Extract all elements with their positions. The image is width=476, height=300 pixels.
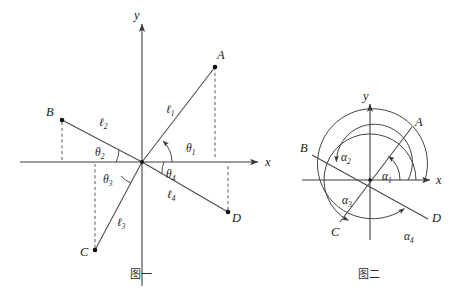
geometry-diagram: x y A B C D ℓ1 ℓ2 ℓ3 ℓ4 θ1 θ2 bbox=[0, 0, 476, 300]
right-y-axis-label: y bbox=[361, 89, 369, 103]
right-point-D-label: D bbox=[431, 211, 441, 225]
right-x-axis-label: x bbox=[435, 173, 442, 187]
left-point-A-dot bbox=[213, 65, 218, 70]
right-alpha2-label: α2 bbox=[341, 151, 351, 166]
left-point-C-label: C bbox=[80, 245, 89, 259]
left-point-C-dot bbox=[93, 248, 98, 253]
right-alpha1-label: α1 bbox=[382, 170, 392, 185]
left-point-B-label: B bbox=[46, 105, 54, 119]
right-alpha3-label: α3 bbox=[342, 194, 352, 209]
figure-one-group: x y A B C D ℓ1 ℓ2 ℓ3 ℓ4 θ1 θ2 bbox=[20, 8, 271, 286]
left-segment-l1-label: ℓ1 bbox=[166, 103, 175, 118]
right-origin-dot bbox=[368, 178, 372, 182]
left-point-A-label: A bbox=[216, 48, 225, 62]
figure-two-caption: 图二 bbox=[358, 268, 380, 281]
figure-two-group: x y A B C D α1 α2 α3 α4 图二 bbox=[300, 89, 442, 281]
left-angle-theta1-arc bbox=[163, 141, 172, 162]
figure-one-caption: 图一 bbox=[130, 268, 152, 281]
left-segment-l3-label: ℓ3 bbox=[117, 216, 126, 231]
right-alpha4-arc bbox=[317, 109, 427, 219]
left-angle-theta3-label: θ3 bbox=[103, 173, 113, 188]
left-angle-theta4-label: θ4 bbox=[166, 168, 176, 183]
right-alpha2-arc bbox=[336, 124, 412, 180]
right-point-A-label: A bbox=[414, 115, 423, 129]
left-x-axis-label: x bbox=[264, 155, 271, 169]
left-angle-theta2-label: θ2 bbox=[95, 146, 105, 161]
left-angle-theta2-arc bbox=[116, 150, 119, 162]
left-angle-theta4-arc bbox=[162, 162, 164, 173]
left-point-D-label: D bbox=[231, 211, 241, 225]
left-angle-theta3-arc bbox=[121, 176, 131, 183]
figure-canvas: x y A B C D ℓ1 ℓ2 ℓ3 ℓ4 θ1 θ2 bbox=[0, 0, 476, 300]
right-point-C-label: C bbox=[331, 225, 340, 239]
left-segment-OA bbox=[142, 67, 215, 162]
left-y-axis-label: y bbox=[132, 8, 140, 22]
left-point-B-dot bbox=[60, 118, 65, 123]
left-angle-theta1-label: θ1 bbox=[186, 142, 195, 157]
right-alpha4-label: α4 bbox=[404, 230, 414, 245]
left-point-D-dot bbox=[226, 210, 231, 215]
left-origin-dot bbox=[140, 160, 144, 164]
left-segment-OD bbox=[142, 162, 228, 212]
right-point-B-label: B bbox=[300, 141, 308, 155]
left-segment-l2-label: ℓ2 bbox=[99, 116, 108, 131]
left-segment-l4-label: ℓ4 bbox=[167, 188, 176, 203]
